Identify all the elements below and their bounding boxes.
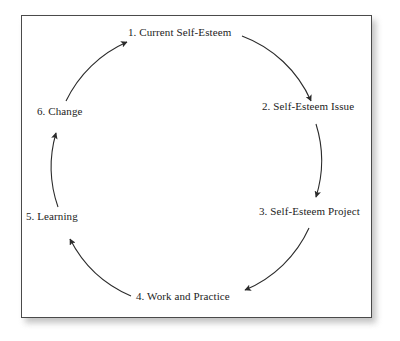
- cycle-node-change: 6. Change: [37, 105, 83, 117]
- arrow-stage5-to-stage6: [51, 133, 58, 207]
- arrow-stage3-to-stage4: [245, 228, 309, 290]
- arrow-stage2-to-stage3: [316, 124, 322, 197]
- cycle-node-learning: 5. Learning: [26, 210, 78, 222]
- cycle-node-self-esteem-issue: 2. Self-Esteem Issue: [262, 100, 354, 112]
- arrow-stage6-to-stage1: [66, 42, 127, 101]
- figure-page: 1. Current Self-Esteem 2. Self-Esteem Is…: [0, 0, 400, 341]
- cycle-node-current-self-esteem: 1. Current Self-Esteem: [128, 26, 231, 38]
- cycle-node-self-esteem-project: 3. Self-Esteem Project: [259, 205, 360, 217]
- arrow-stage1-to-stage2: [242, 36, 311, 101]
- arrow-stage4-to-stage5: [70, 239, 131, 296]
- cycle-node-work-and-practice: 4. Work and Practice: [136, 290, 230, 302]
